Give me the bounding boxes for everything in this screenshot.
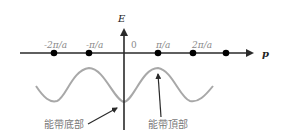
p-axis-label: p [262, 48, 269, 59]
tick-label-pi: π/a [156, 40, 170, 50]
point-neg-2pi [51, 50, 58, 57]
point-pi [155, 50, 162, 57]
band-diagram [0, 0, 293, 138]
tick-label-zero: 0 [131, 40, 137, 50]
arrow-band-bottom [88, 108, 117, 124]
tick-label-neg-pi: -π/a [86, 40, 103, 50]
point-2pi [190, 50, 197, 57]
tick-label-2pi: 2π/a [192, 40, 212, 50]
e-axis-label: E [118, 13, 125, 24]
band-top-label: 能帶頂部 [148, 119, 188, 131]
tick-label-neg-2pi: -2π/a [44, 40, 67, 50]
point-3pi [223, 50, 230, 57]
band-bottom-label: 能帶底部 [44, 119, 84, 131]
point-neg-pi [86, 50, 93, 57]
arrow-band-top [158, 74, 161, 117]
